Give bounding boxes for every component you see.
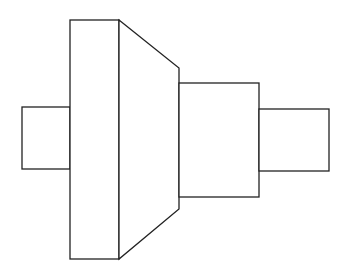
middle-section <box>179 83 259 197</box>
right-stub <box>259 109 329 171</box>
shaft-diagram <box>0 0 349 271</box>
left-stub <box>22 107 70 169</box>
taper <box>119 20 179 259</box>
collar <box>70 20 119 259</box>
